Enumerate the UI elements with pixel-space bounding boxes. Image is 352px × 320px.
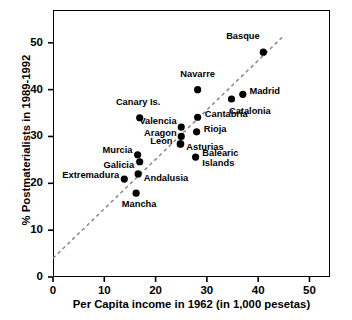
x-axis-title: Per Capita income in 1962 (in 1,000 pese… [53, 298, 330, 310]
data-point-rioja [193, 128, 200, 135]
y-axis-title: % Postmaterialists in 1989-1992 [20, 10, 32, 270]
x-tick-label-50: 50 [295, 285, 323, 296]
data-point-balearic-islands [192, 153, 199, 160]
point-label-canary-is-: Canary Is. [98, 98, 178, 108]
data-point-extremadura [121, 176, 128, 183]
data-point-madrid [239, 91, 246, 98]
data-point-navarre [194, 86, 201, 93]
point-label-leon: Leon [150, 137, 172, 147]
point-label-extremadura: Extremadura [62, 171, 119, 181]
data-point-catalonia [228, 95, 235, 102]
y-axis-ticks [48, 43, 53, 277]
x-tick-label-10: 10 [90, 285, 118, 296]
point-label-murcia: Murcia [103, 146, 133, 156]
point-label-valencia: Valencia [139, 117, 176, 127]
data-point-asturias [177, 140, 184, 147]
x-axis-ticks [53, 277, 309, 282]
data-point-valencia [178, 124, 185, 131]
x-tick-label-40: 40 [244, 285, 272, 296]
x-tick-label-0: 0 [39, 285, 67, 296]
point-label-mancha: Mancha [99, 200, 179, 210]
point-label-basque: Basque [226, 32, 260, 42]
point-label-balearic-islands: Balearic Islands [202, 149, 238, 168]
figure-scatter-postmaterialists: 01020304050 01020304050 BasqueMadridCata… [0, 0, 352, 320]
data-point-murcia [134, 151, 141, 158]
x-tick-label-20: 20 [142, 285, 170, 296]
plot-overlay [0, 0, 352, 320]
x-tick-label-30: 30 [193, 285, 221, 296]
point-label-rioja: Rioja [204, 125, 227, 135]
data-point-basque [260, 49, 267, 56]
point-label-navarre: Navarre [158, 70, 238, 80]
data-point-aragon [178, 133, 185, 140]
point-label-cantabria: Cantabria [205, 110, 248, 120]
data-point-cantabria [194, 114, 201, 121]
point-label-madrid: Madrid [249, 87, 279, 97]
data-point-mancha [133, 190, 140, 197]
point-label-andalusia: Andalusia [144, 174, 188, 184]
point-label-galicia: Galicia [104, 161, 135, 171]
data-point-galicia [136, 158, 143, 165]
data-point-andalusia [135, 170, 142, 177]
y-tick-label-0: 0 [17, 271, 43, 282]
